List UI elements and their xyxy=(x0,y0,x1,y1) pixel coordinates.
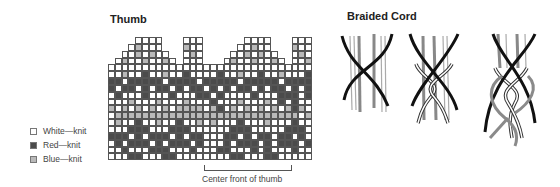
chart-cell xyxy=(217,112,224,119)
chart-cell xyxy=(305,147,312,154)
chart-cell xyxy=(271,58,278,65)
chart-cell xyxy=(142,92,149,99)
chart-cell xyxy=(271,64,278,71)
chart-cell xyxy=(230,51,237,58)
chart-cell xyxy=(203,92,210,99)
chart-cell xyxy=(224,99,231,106)
chart-cell xyxy=(217,140,224,147)
chart-cell xyxy=(122,92,129,99)
chart-cell xyxy=(271,78,278,85)
chart-cell xyxy=(224,112,231,119)
legend-item-white: White—knit xyxy=(30,124,86,138)
chart-cell xyxy=(108,147,115,154)
chart-cell xyxy=(237,119,244,126)
chart-cell xyxy=(108,99,115,106)
legend-label: Red—knit xyxy=(43,140,80,150)
chart-cell xyxy=(176,153,183,160)
chart-cell xyxy=(128,119,135,126)
chart-cell xyxy=(292,92,299,99)
chart-empty xyxy=(169,37,176,44)
chart-cell xyxy=(278,105,285,112)
chart-empty xyxy=(210,51,217,58)
chart-cell xyxy=(305,37,312,44)
chart-cell xyxy=(190,133,197,140)
chart-cell xyxy=(264,126,271,133)
chart-cell xyxy=(196,37,203,44)
chart-cell xyxy=(271,85,278,92)
chart-cell xyxy=(122,133,129,140)
chart-cell xyxy=(224,126,231,133)
chart-cell xyxy=(251,71,258,78)
chart-cell xyxy=(142,119,149,126)
chart-cell xyxy=(271,119,278,126)
chart-cell xyxy=(162,99,169,106)
chart-cell xyxy=(135,153,142,160)
chart-cell xyxy=(292,126,299,133)
chart-cell xyxy=(258,112,265,119)
chart-cell xyxy=(203,133,210,140)
chart-cell xyxy=(122,99,129,106)
chart-cell xyxy=(237,153,244,160)
chart-cell xyxy=(224,71,231,78)
chart-cell xyxy=(190,58,197,65)
chart-cell xyxy=(196,119,203,126)
chart-cell xyxy=(217,133,224,140)
chart-empty xyxy=(271,44,278,51)
chart-cell xyxy=(230,92,237,99)
chart-cell xyxy=(271,92,278,99)
chart-cell xyxy=(230,112,237,119)
chart-cell xyxy=(292,64,299,71)
chart-cell xyxy=(251,153,258,160)
chart-cell xyxy=(142,147,149,154)
chart-cell xyxy=(224,64,231,71)
chart-cell xyxy=(292,112,299,119)
chart-cell xyxy=(305,78,312,85)
chart-cell xyxy=(128,140,135,147)
chart-cell xyxy=(122,71,129,78)
chart-cell xyxy=(176,99,183,106)
chart-cell xyxy=(196,51,203,58)
chart-cell xyxy=(271,71,278,78)
chart-cell xyxy=(156,64,163,71)
chart-cell xyxy=(156,85,163,92)
chart-cell xyxy=(271,112,278,119)
legend-label: Blue—knit xyxy=(43,154,82,164)
braid-step-3-icon xyxy=(485,34,535,146)
chart-cell xyxy=(278,99,285,106)
chart-cell xyxy=(176,71,183,78)
chart-empty xyxy=(285,51,292,58)
chart-empty xyxy=(115,37,122,44)
center-front-bracket xyxy=(204,165,292,171)
chart-cell xyxy=(108,153,115,160)
chart-cell xyxy=(142,99,149,106)
chart-cell xyxy=(244,37,251,44)
chart-cell xyxy=(278,126,285,133)
chart-cell xyxy=(115,71,122,78)
chart-cell xyxy=(196,71,203,78)
chart-cell xyxy=(305,92,312,99)
chart-cell xyxy=(162,153,169,160)
chart-cell xyxy=(271,126,278,133)
chart-cell xyxy=(196,92,203,99)
chart-cell xyxy=(183,105,190,112)
chart-cell xyxy=(224,140,231,147)
chart-cell xyxy=(298,105,305,112)
chart-cell xyxy=(108,64,115,71)
chart-cell xyxy=(149,71,156,78)
chart-cell xyxy=(251,133,258,140)
chart-empty xyxy=(237,37,244,44)
chart-cell xyxy=(108,112,115,119)
chart-cell xyxy=(285,99,292,106)
chart-cell xyxy=(230,58,237,65)
chart-cell xyxy=(115,92,122,99)
chart-cell xyxy=(169,119,176,126)
chart-cell xyxy=(149,126,156,133)
chart-cell xyxy=(135,112,142,119)
chart-cell xyxy=(162,92,169,99)
chart-cell xyxy=(128,71,135,78)
chart-cell xyxy=(122,126,129,133)
chart-cell xyxy=(108,92,115,99)
chart-cell xyxy=(292,78,299,85)
chart-cell xyxy=(298,78,305,85)
chart-cell xyxy=(230,133,237,140)
